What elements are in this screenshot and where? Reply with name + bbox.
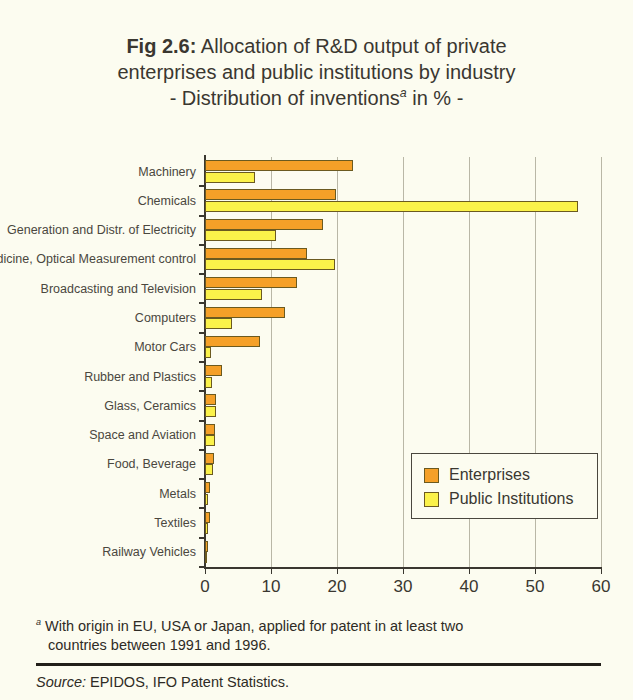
figure-number: Fig 2.6: (126, 35, 196, 57)
figure-container: Fig 2.6: Allocation of R&D output of pri… (0, 0, 633, 700)
bar-public-institutions (205, 318, 232, 329)
bar-row: Motor Cars (205, 333, 601, 362)
legend-item-enterprises: Enterprises (424, 466, 587, 484)
bar-public-institutions (205, 552, 207, 563)
x-tick-0 (205, 567, 206, 574)
category-label: Computers (135, 311, 196, 325)
bar-enterprises (205, 219, 323, 230)
bar-enterprises (205, 424, 215, 435)
bar-enterprises (205, 512, 210, 523)
category-label: Machinery (138, 165, 196, 179)
bar-enterprises (205, 307, 285, 318)
bar-row: Medicine, Optical Measurement control (205, 245, 601, 274)
bar-row: Broadcasting and Television (205, 274, 601, 303)
x-tick-20 (337, 567, 338, 574)
legend-label-enterprises: Enterprises (449, 466, 530, 484)
source-label: Source: (36, 674, 86, 690)
bar-row: Chemicals (205, 186, 601, 215)
bar-enterprises (205, 248, 307, 259)
x-tick-label-10: 10 (262, 577, 281, 597)
bar-row: Generation and Distr. of Electricity (205, 216, 601, 245)
title-line-3-post: in % - (407, 87, 464, 109)
x-tick-label-40: 40 (460, 577, 479, 597)
bar-row: Glass, Ceramics (205, 391, 601, 420)
bar-public-institutions (205, 377, 212, 388)
category-label: Metals (159, 487, 196, 501)
legend-swatch-enterprises-icon (424, 468, 439, 483)
title-line-1-rest: Allocation of R&D output of private (196, 35, 506, 57)
footnote-line-1: With origin in EU, USA or Japan, applied… (41, 618, 463, 634)
footnote: a With origin in EU, USA or Japan, appli… (36, 616, 601, 656)
category-label: Generation and Distr. of Electricity (7, 223, 196, 237)
footnote-line-2: countries between 1991 and 1996. (36, 636, 601, 656)
source-text: EPIDOS, IFO Patent Statistics. (86, 674, 289, 690)
x-tick-label-50: 50 (526, 577, 545, 597)
x-tick-10 (271, 567, 272, 574)
bar-row: Space and Aviation (205, 421, 601, 450)
bar-enterprises (205, 189, 336, 200)
bar-enterprises (205, 365, 222, 376)
title-line-3-pre: - Distribution of inventions (170, 87, 400, 109)
bar-public-institutions (205, 230, 276, 241)
category-label: Medicine, Optical Measurement control (0, 252, 196, 266)
title-footnote-marker: a (400, 86, 407, 100)
bar-row: Machinery (205, 157, 601, 186)
bar-public-institutions (205, 523, 208, 534)
legend-item-public-institutions: Public Institutions (424, 490, 587, 508)
title-line-3: - Distribution of inventionsa in % - (0, 85, 633, 111)
bar-enterprises (205, 453, 214, 464)
category-label: Space and Aviation (89, 428, 196, 442)
legend-label-public-institutions: Public Institutions (449, 490, 574, 508)
bar-enterprises (205, 394, 216, 405)
bar-public-institutions (205, 201, 578, 212)
title-line-1: Fig 2.6: Allocation of R&D output of pri… (0, 33, 633, 59)
bar-public-institutions (205, 172, 255, 183)
legend-swatch-public-institutions-icon (424, 492, 439, 507)
bar-row: Railway Vehicles (205, 538, 601, 567)
x-tick-label-20: 20 (328, 577, 347, 597)
bar-public-institutions (205, 259, 335, 270)
gridline-60 (601, 157, 602, 567)
figure-title: Fig 2.6: Allocation of R&D output of pri… (0, 33, 633, 111)
category-label: Broadcasting and Television (41, 282, 196, 296)
x-tick-label-0: 0 (200, 577, 209, 597)
x-tick-label-60: 60 (592, 577, 611, 597)
category-label: Chemicals (138, 194, 196, 208)
horizontal-rule (36, 663, 601, 666)
x-tick-30 (403, 567, 404, 574)
bar-public-institutions (205, 406, 216, 417)
x-tick-60 (601, 567, 602, 574)
source-note: Source: EPIDOS, IFO Patent Statistics. (36, 674, 289, 690)
bar-row: Computers (205, 303, 601, 332)
category-label: Railway Vehicles (102, 545, 196, 559)
chart-legend: Enterprises Public Institutions (411, 453, 598, 519)
bar-enterprises (205, 541, 208, 552)
bar-row: Rubber and Plastics (205, 362, 601, 391)
category-label: Glass, Ceramics (104, 399, 196, 413)
bar-public-institutions (205, 289, 262, 300)
x-tick-50 (535, 567, 536, 574)
bar-public-institutions (205, 347, 211, 358)
bar-public-institutions (205, 494, 208, 505)
bar-public-institutions (205, 464, 213, 475)
category-label: Rubber and Plastics (84, 370, 196, 384)
category-label: Food, Beverage (107, 457, 196, 471)
category-label: Motor Cars (134, 340, 196, 354)
x-tick-label-30: 30 (394, 577, 413, 597)
bar-enterprises (205, 336, 260, 347)
title-line-2: enterprises and public institutions by i… (0, 59, 633, 85)
category-label: Textiles (154, 516, 196, 530)
bar-enterprises (205, 160, 353, 171)
x-tick-40 (469, 567, 470, 574)
bar-public-institutions (205, 435, 215, 446)
bar-enterprises (205, 277, 297, 288)
bar-enterprises (205, 482, 210, 493)
